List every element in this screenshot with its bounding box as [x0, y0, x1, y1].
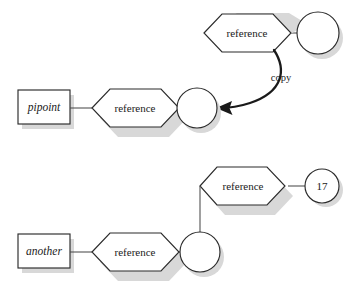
diagram-svg: reference copy pipoint reference referen…	[0, 0, 356, 295]
pipoint-box-label: pipoint	[27, 101, 61, 114]
another-box-label: another	[26, 245, 62, 257]
diagram-canvas: reference copy pipoint reference referen…	[0, 0, 356, 295]
copy-edge-label: copy	[271, 72, 292, 83]
bottom-left-reference-label: reference	[115, 246, 156, 258]
value-circle-label: 17	[317, 180, 329, 192]
source-reference-label: reference	[227, 27, 268, 39]
top-target-circle	[177, 88, 217, 128]
upper-reference-label: reference	[223, 180, 264, 192]
bottom-target-circle	[180, 232, 220, 272]
source-circle	[297, 12, 339, 54]
top-left-reference-label: reference	[115, 102, 156, 114]
